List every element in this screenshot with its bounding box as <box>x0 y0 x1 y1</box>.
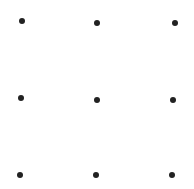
grid-dot-r3-c3 <box>169 172 175 178</box>
grid-dot-r3-c1 <box>17 172 23 178</box>
grid-dot-r3-c2 <box>93 172 99 178</box>
grid-dot-r2-c1 <box>18 95 24 101</box>
grid-dot-r1-c3 <box>172 20 178 26</box>
grid-dot-r1-c2 <box>94 20 100 26</box>
grid-dot-r1-c1 <box>19 18 25 24</box>
dot-grid <box>0 0 194 189</box>
grid-dot-r2-c2 <box>94 97 100 103</box>
grid-dot-r2-c3 <box>170 97 176 103</box>
